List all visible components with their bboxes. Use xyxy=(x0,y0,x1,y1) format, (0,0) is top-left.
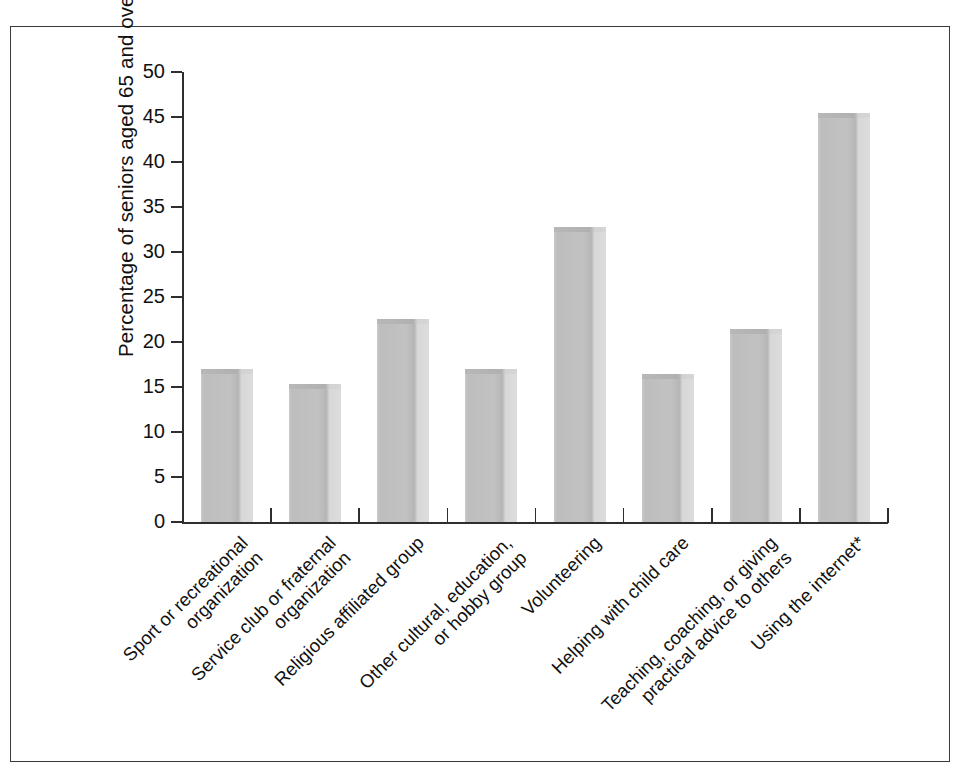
y-axis-tick xyxy=(171,296,182,298)
y-axis-tick xyxy=(171,206,182,208)
y-axis-tick-label: 20 xyxy=(119,331,165,351)
y-axis-tick xyxy=(171,116,182,118)
category-label-line: Other cultural, education, xyxy=(355,532,516,693)
y-axis-tick xyxy=(171,71,182,73)
x-axis-tick xyxy=(270,508,272,523)
x-axis-tick xyxy=(358,508,360,523)
y-axis-tick xyxy=(171,431,182,433)
bar xyxy=(554,227,606,522)
plot-area: Percentage of seniors aged 65 and over 5… xyxy=(11,27,951,763)
x-axis-category-label: Other cultural, education,or hobby group xyxy=(355,532,531,708)
bar xyxy=(730,329,782,522)
x-axis-category-label: Volunteering xyxy=(517,532,605,620)
bar xyxy=(377,319,429,522)
y-axis-tick xyxy=(171,161,182,163)
bar xyxy=(465,369,517,522)
y-axis-line xyxy=(182,72,184,523)
y-axis-tick-label: 50 xyxy=(119,61,165,81)
y-axis-tick-label: 5 xyxy=(119,466,165,486)
y-axis-tick-label: 15 xyxy=(119,376,165,396)
x-axis-tick xyxy=(799,508,801,523)
y-axis-tick-label: 10 xyxy=(119,421,165,441)
y-axis-tick xyxy=(171,386,182,388)
x-axis-tick xyxy=(887,508,889,523)
x-axis-tick xyxy=(623,508,625,523)
y-axis-tick-label: 45 xyxy=(119,106,165,126)
y-axis-tick xyxy=(171,341,182,343)
y-axis-tick-label: 0 xyxy=(119,511,165,531)
bar xyxy=(201,369,253,522)
x-axis-tick xyxy=(535,508,537,523)
y-axis-tick xyxy=(171,251,182,253)
category-label-line: Volunteering xyxy=(517,532,605,620)
y-axis-tick-labels: 50454035302520151050 xyxy=(107,27,165,587)
y-axis-tick xyxy=(171,476,182,478)
y-axis-tick-label: 30 xyxy=(119,241,165,261)
bar xyxy=(642,374,694,522)
y-axis-tick-label: 25 xyxy=(119,286,165,306)
y-axis-tick xyxy=(171,521,182,523)
x-axis-tick xyxy=(711,508,713,523)
x-axis-tick xyxy=(182,508,184,523)
category-label-line: Teaching, coaching, or giving xyxy=(597,532,781,716)
y-axis-tick-label: 40 xyxy=(119,151,165,171)
y-axis-tick-label: 35 xyxy=(119,196,165,216)
bar xyxy=(818,113,870,522)
bar xyxy=(289,384,341,522)
figure-frame: Percentage of seniors aged 65 and over 5… xyxy=(10,26,950,762)
x-axis-tick xyxy=(447,508,449,523)
